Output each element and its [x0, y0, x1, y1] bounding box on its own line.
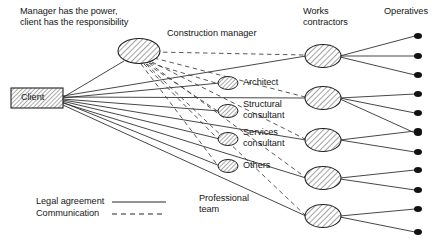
professional-team-caption: Professional team: [199, 193, 249, 216]
legend-samples: [112, 202, 166, 214]
legend-label-legal-agreement: Legal agreement: [36, 196, 104, 207]
node-label-architect: Architect: [243, 77, 278, 88]
node-label-structural-consultant: Structural consultant: [243, 99, 284, 122]
node-label-services-consultant: Services consultant: [243, 127, 284, 150]
professional-team-nodes: [218, 77, 238, 173]
legend-label-communication: Communication: [36, 208, 99, 219]
operative-edges: [340, 36, 415, 232]
node-construction-manager: [118, 39, 160, 64]
organisation-structure-diagram: Manager has the power, client has the re…: [0, 0, 441, 250]
headline-note: Manager has the power, client has the re…: [20, 6, 128, 29]
node-label-client: Client: [21, 92, 44, 103]
column-header-operatives: Operatives: [384, 6, 428, 17]
works-contractor-nodes: [305, 45, 341, 228]
column-header-works-contractors: Works contractors: [303, 6, 348, 29]
node-label-others: Others: [243, 160, 270, 171]
operative-nodes: [414, 33, 422, 235]
node-label-construction-manager: Construction manager: [167, 28, 256, 39]
